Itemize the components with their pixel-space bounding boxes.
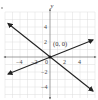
x-tick-neg4: −4 <box>16 59 22 65</box>
origin-point <box>49 56 52 59</box>
y-tick-neg2: −2 <box>41 69 47 75</box>
y-axis-label: y <box>50 2 54 9</box>
y-tick-2: 2 <box>44 39 47 45</box>
corner-mark <box>1 7 3 9</box>
point-label: (0, 0) <box>53 40 67 48</box>
x-tick-2: 2 <box>63 59 66 65</box>
y-tick-neg4: −4 <box>41 84 47 90</box>
x-tick-4: 4 <box>78 59 81 65</box>
x-tick-0: 0 <box>45 59 48 65</box>
coordinate-plot: y 4 2 −2 −4 −4 −2 0 2 4 (0, 0) <box>0 0 98 100</box>
y-tick-4: 4 <box>44 24 47 30</box>
